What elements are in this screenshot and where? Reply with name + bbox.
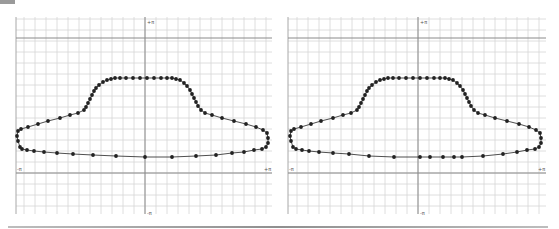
bottom-divider	[8, 226, 548, 228]
plot-right-canvas	[279, 0, 559, 229]
x-min-label: -π	[289, 166, 294, 172]
y-min-label: -π	[147, 210, 152, 216]
x-min-label: -π	[17, 166, 22, 172]
plot-right: +π -π +π -π	[279, 0, 559, 229]
x-max-label: +π	[538, 166, 545, 172]
x-max-label: +π	[264, 166, 271, 172]
plot-left-canvas	[0, 0, 280, 229]
y-max-label: +π	[420, 19, 427, 25]
y-max-label: +π	[147, 19, 154, 25]
y-min-label: -π	[420, 210, 425, 216]
plot-left: +π -π +π -π	[0, 0, 280, 229]
